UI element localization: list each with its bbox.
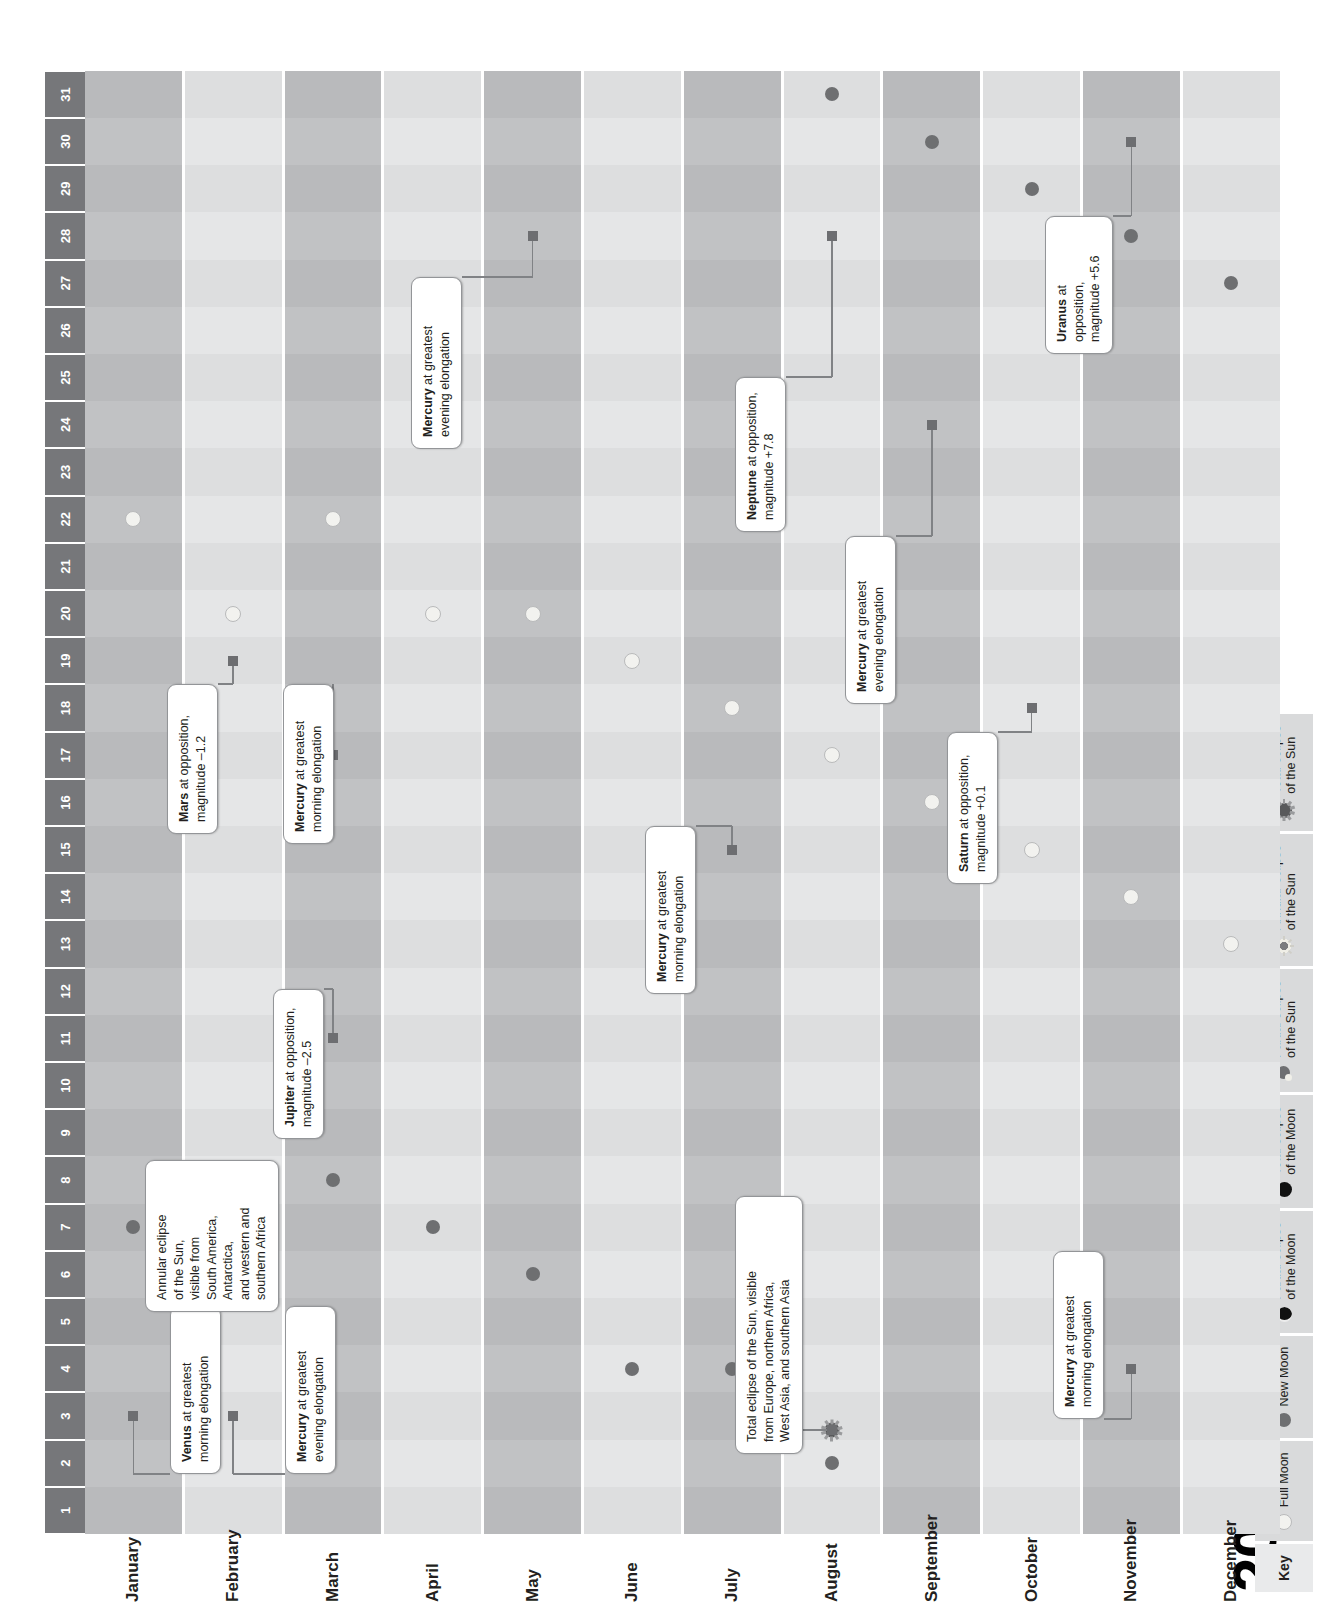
leader-line: [1131, 1369, 1133, 1419]
day-cell: [1183, 968, 1280, 1015]
day-cell: [684, 732, 781, 779]
day-cell: [784, 1015, 881, 1062]
marker-full-moon: [1024, 842, 1040, 858]
day-cell: [285, 260, 382, 307]
day-cell: [784, 1109, 881, 1156]
day-header-11: 11: [45, 1016, 85, 1061]
day-cell: [484, 1487, 581, 1534]
day-cell: [85, 448, 182, 495]
leader-line: [462, 276, 533, 278]
day-cell: [384, 1156, 481, 1203]
marker-full-moon: [824, 747, 840, 763]
day-cell: [883, 260, 980, 307]
day-cell: [1183, 118, 1280, 165]
day-cell: [983, 590, 1080, 637]
day-cell: [983, 118, 1080, 165]
day-header-29: 29: [45, 166, 85, 211]
annotation-line: from Europe, northern Africa,: [761, 1208, 778, 1442]
day-cell: [185, 1015, 282, 1062]
calendar-grid: 1234567891011121314151617181920212223242…: [45, 71, 1283, 1534]
annotation-line: Saturn at opposition,: [956, 744, 973, 872]
annotation-line: morning elongation: [196, 1318, 213, 1462]
annotation-line: Mars at opposition,: [176, 696, 193, 822]
marker-full-moon: [125, 511, 141, 527]
day-cell: [584, 1015, 681, 1062]
full-moon-icon: [1223, 936, 1239, 952]
day-cell: [484, 1440, 581, 1487]
day-cell: [983, 1487, 1080, 1534]
day-cell: [384, 1062, 481, 1109]
day-cell: [484, 401, 581, 448]
day-cell: [684, 779, 781, 826]
day-header-27: 27: [45, 261, 85, 306]
day-cell: [1183, 1156, 1280, 1203]
day-cell: [883, 1392, 980, 1439]
day-cell: [384, 496, 481, 543]
month-label-april: April: [384, 1534, 481, 1606]
day-cell: [285, 1204, 382, 1251]
day-cell: [784, 920, 881, 967]
day-header-26: 26: [45, 308, 85, 353]
day-cell: [85, 637, 182, 684]
annotation-line: morning elongation: [309, 696, 326, 832]
marker-new-moon: [1025, 182, 1039, 196]
day-cell: [384, 71, 481, 118]
day-cell: [983, 401, 1080, 448]
day-cell: [285, 543, 382, 590]
day-cell: [85, 590, 182, 637]
day-cell: [584, 732, 681, 779]
annotation-line: evening elongation: [311, 1318, 328, 1462]
day-cell: [584, 1062, 681, 1109]
marker-full-moon: [525, 606, 541, 622]
annotation-neptune-aug: Neptune at opposition,magnitude +7.8: [735, 377, 786, 532]
day-cell: [285, 590, 382, 637]
day-cell: [185, 401, 282, 448]
day-cell: [285, 165, 382, 212]
full-moon-icon: [525, 606, 541, 622]
day-cell: [1183, 684, 1280, 731]
day-cell: [185, 212, 282, 259]
day-cell: [185, 1062, 282, 1109]
day-cell: [85, 1487, 182, 1534]
day-cell: [1083, 354, 1180, 401]
day-cell: [883, 637, 980, 684]
month-label-march: March: [285, 1534, 382, 1606]
day-cell: [684, 590, 781, 637]
day-cell: [384, 968, 481, 1015]
marker-full-moon: [325, 511, 341, 527]
marker-new-moon: [426, 1220, 440, 1234]
annotation-subject: Jupiter: [283, 1085, 297, 1127]
day-cell: [1183, 826, 1280, 873]
annotation-line: visible from: [187, 1172, 204, 1300]
day-cell: [484, 1204, 581, 1251]
leader-marker: [827, 1425, 837, 1435]
day-cell: [384, 1015, 481, 1062]
day-cell: [584, 1204, 681, 1251]
day-cell: [285, 307, 382, 354]
annotation-mars-feb: Mars at opposition,magnitude –1.2: [167, 684, 218, 834]
day-cell: [883, 1156, 980, 1203]
new-moon-icon: [1025, 182, 1039, 196]
annotation-mercury-nov: Mercury at greatestmorning elongation: [1053, 1251, 1104, 1419]
full-moon-icon: [1024, 842, 1040, 858]
leader-line: [998, 731, 1032, 733]
day-cell: [185, 165, 282, 212]
day-cell: [484, 826, 581, 873]
day-cell: [1183, 448, 1280, 495]
day-cell: [883, 920, 980, 967]
day-cell: [484, 165, 581, 212]
annotation-mercury-feb: Mercury at greatestevening elongation: [285, 1306, 336, 1474]
new-moon-icon: [825, 1456, 839, 1470]
day-cell: [1083, 1204, 1180, 1251]
day-cell: [185, 307, 282, 354]
day-cell: [784, 779, 881, 826]
day-cell: [584, 779, 681, 826]
day-cell: [85, 1345, 182, 1392]
leader-marker: [727, 845, 737, 855]
day-header-24: 24: [45, 402, 85, 447]
day-cell: [85, 307, 182, 354]
annotation-line: magnitude –1.2: [193, 696, 210, 822]
day-cell: [384, 684, 481, 731]
day-cell: [85, 968, 182, 1015]
annotation-annular-eclipse-feb: Annular eclipseof the Sun,visible fromSo…: [145, 1160, 279, 1312]
